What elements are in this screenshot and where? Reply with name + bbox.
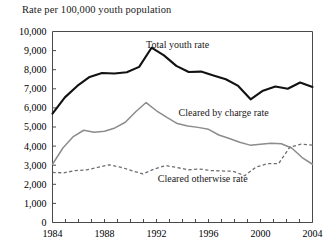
series-label: Cleared by charge rate: [179, 107, 270, 118]
y-tick-label: 0: [42, 217, 47, 228]
y-tick-label: 9,000: [24, 45, 47, 56]
series-annotations: Total youth rateCleared by charge rateCl…: [146, 39, 269, 185]
y-tick-label: 8,000: [24, 64, 47, 75]
chart-container: Rate per 100,000 youth population 01,000…: [0, 0, 334, 252]
x-tick-label: 1996: [199, 228, 219, 239]
series-label: Cleared otherwise rate: [158, 173, 249, 184]
x-tick-label: 2004: [303, 228, 323, 239]
y-tick-label: 5,000: [24, 121, 47, 132]
x-axis-tick-labels: 198419881992199620002004: [43, 228, 323, 239]
line-chart-plot: 01,0002,0003,0004,0005,0006,0007,0008,00…: [0, 0, 334, 252]
y-tick-label: 7,000: [24, 83, 47, 94]
x-tick-label: 1992: [147, 228, 167, 239]
x-tick-label: 1984: [43, 228, 63, 239]
x-tick-label: 2000: [251, 228, 271, 239]
y-tick-label: 10,000: [19, 26, 47, 37]
y-tick-label: 1,000: [24, 198, 47, 209]
y-tick-label: 6,000: [24, 102, 47, 113]
y-tick-label: 2,000: [24, 179, 47, 190]
y-axis-tick-labels: 01,0002,0003,0004,0005,0006,0007,0008,00…: [19, 26, 47, 228]
series-label: Total youth rate: [146, 39, 210, 50]
series-line: [53, 144, 313, 176]
axis-frame: [53, 32, 313, 223]
y-tick-label: 4,000: [24, 141, 47, 152]
y-tick-label: 3,000: [24, 160, 47, 171]
x-tick-label: 1988: [95, 228, 115, 239]
series-line: [53, 48, 313, 114]
